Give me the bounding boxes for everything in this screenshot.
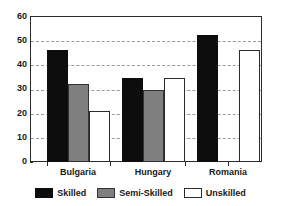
legend-swatch-skilled-icon xyxy=(35,188,53,198)
bar-chart: 60 50 40 30 20 10 0 B xyxy=(0,0,281,206)
legend-label-semi-skilled: Semi-Skilled xyxy=(119,188,173,198)
bar-hungary-unskilled xyxy=(164,78,185,162)
x-category-label-bulgaria: Bulgaria xyxy=(48,167,108,178)
legend-item-skilled: Skilled xyxy=(35,188,86,198)
chart-legend: Skilled Semi-Skilled Unskilled xyxy=(0,186,281,200)
y-tick-mark-0 xyxy=(30,162,33,163)
legend-item-unskilled: Unskilled xyxy=(184,188,246,198)
bar-bulgaria-skilled xyxy=(47,50,68,162)
y-tick-label-40: 40 xyxy=(1,60,27,69)
y-axis: 60 50 40 30 20 10 0 xyxy=(0,16,27,162)
y-tick-label-60: 60 xyxy=(1,12,27,21)
bar-bulgaria-unskilled xyxy=(89,111,110,162)
x-tick-mark-bulgaria-left xyxy=(47,162,48,166)
bars-layer xyxy=(30,16,262,162)
legend-label-unskilled: Unskilled xyxy=(206,188,246,198)
x-tick-mark-hungary-right xyxy=(185,162,186,166)
legend-item-semi-skilled: Semi-Skilled xyxy=(97,188,173,198)
x-category-label-romania: Romania xyxy=(198,167,258,178)
y-tick-label-30: 30 xyxy=(1,84,27,93)
x-tick-mark-romania-right xyxy=(228,162,229,166)
legend-swatch-semi-skilled-icon xyxy=(97,188,115,198)
y-tick-label-20: 20 xyxy=(1,109,27,118)
x-category-label-hungary: Hungary xyxy=(123,167,183,178)
bar-hungary-semi-skilled xyxy=(143,90,164,162)
x-tick-mark-bulgaria-right xyxy=(110,162,111,166)
y-tick-label-10: 10 xyxy=(1,133,27,142)
bar-bulgaria-semi-skilled xyxy=(68,84,89,162)
y-tick-label-50: 50 xyxy=(1,36,27,45)
bar-romania-skilled xyxy=(197,35,218,162)
bar-romania-unskilled xyxy=(239,50,260,162)
y-tick-label-0: 0 xyxy=(1,157,27,166)
legend-swatch-unskilled-icon xyxy=(184,188,202,198)
bar-hungary-skilled xyxy=(122,78,143,162)
legend-label-skilled: Skilled xyxy=(57,188,86,198)
